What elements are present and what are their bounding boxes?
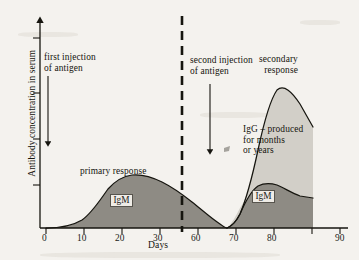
x-tick-label-70: 70 [229, 233, 238, 243]
igm-secondary-label: IgM [252, 190, 275, 203]
igg-note-label: IgG – produced for months or years [243, 124, 303, 156]
x-tick-label-0: 0 [42, 233, 47, 243]
primary-response-label: primary response [80, 166, 146, 177]
x-tick-label-10: 10 [77, 233, 86, 243]
y-axis-title: Antibody concentration in serum [27, 33, 38, 193]
x-tick-label-30: 30 [153, 233, 162, 243]
x-tick-label-90: 90 [335, 233, 344, 243]
x-tick-label-80: 80 [267, 233, 276, 243]
second-injection-label: second injection of antigen [190, 55, 253, 76]
x-tick-label-20: 20 [115, 233, 124, 243]
immune-response-figure: Antibody concentration in serum Days fir… [0, 0, 359, 260]
secondary-response-label: secondary response [259, 54, 298, 75]
scan-smudge [224, 146, 230, 152]
igm-primary-label: IgM [110, 194, 133, 207]
x-tick-label-60: 60 [191, 233, 200, 243]
first-injection-label: first injection of antigen [44, 52, 96, 73]
chart-canvas [0, 0, 359, 260]
